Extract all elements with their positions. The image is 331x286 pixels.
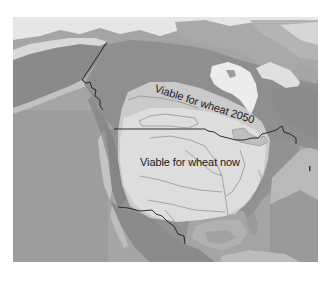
map-frame: Viable for wheat 2050 Viable for wheat n…: [13, 17, 318, 262]
pacific-ocean: [13, 110, 108, 262]
label-viable-now: Viable for wheat now: [140, 156, 240, 168]
relief-map: [13, 17, 318, 262]
